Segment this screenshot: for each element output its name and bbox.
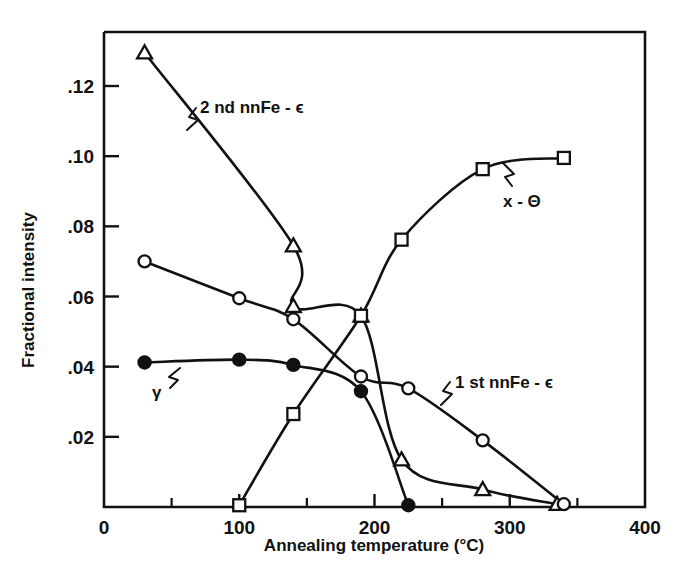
open-circle-marker [287,313,299,325]
open-circle-marker [233,292,245,304]
data-point [402,382,414,394]
data-point [355,310,367,322]
y-tick-label: .12 [68,76,94,97]
figure-root: 0100200300400.02.04.06.08.10.12 2 nd nnF… [0,0,692,587]
data-point [233,292,245,304]
data-point [233,499,245,511]
data-point [477,434,489,446]
filled-circle-marker [355,385,367,397]
annotation-label-0: 2 nd nnFe - ϵ [200,98,304,117]
annotation-label-1: 1 st nnFe - ϵ [455,373,553,392]
annotation-label-3: γ [152,383,162,402]
open-circle-marker [139,255,151,267]
filled-circle-marker [402,499,414,511]
open-square-marker [287,408,299,420]
data-point [138,356,150,368]
open-square-marker [477,163,489,175]
data-point [139,255,151,267]
filled-circle-marker [233,353,245,365]
data-point [287,313,299,325]
open-square-marker [355,310,367,322]
data-point [558,152,570,164]
y-tick-label: .10 [68,146,94,167]
filled-circle-marker [287,359,299,371]
open-circle-marker [355,370,367,382]
open-circle-marker [558,498,570,510]
data-point [287,408,299,420]
data-point [402,499,414,511]
x-tick-label: 400 [629,517,661,538]
data-point [355,385,367,397]
open-square-marker [233,499,245,511]
x-axis-label: Annealing temperature (°C) [264,536,484,555]
y-tick-label: .06 [68,287,94,308]
y-tick-label: .04 [68,357,95,378]
y-axis-label: Fractional intensity [19,212,38,368]
y-tick-label: .08 [68,216,94,237]
open-square-marker [558,152,570,164]
open-square-marker [396,234,408,246]
data-point [396,234,408,246]
y-tick-label: .02 [68,427,94,448]
open-circle-marker [402,382,414,394]
x-tick-label: 0 [99,517,110,538]
data-point [477,163,489,175]
x-tick-label: 100 [223,517,255,538]
annotation-label-2: x - Θ [503,192,541,211]
x-tick-label: 200 [359,517,391,538]
annealing-temperature-chart: 0100200300400.02.04.06.08.10.12 2 nd nnF… [0,0,692,587]
open-circle-marker [477,434,489,446]
data-point [355,370,367,382]
data-point [558,498,570,510]
data-point [233,353,245,365]
x-tick-label: 300 [494,517,526,538]
data-point [287,359,299,371]
filled-circle-marker [138,356,150,368]
